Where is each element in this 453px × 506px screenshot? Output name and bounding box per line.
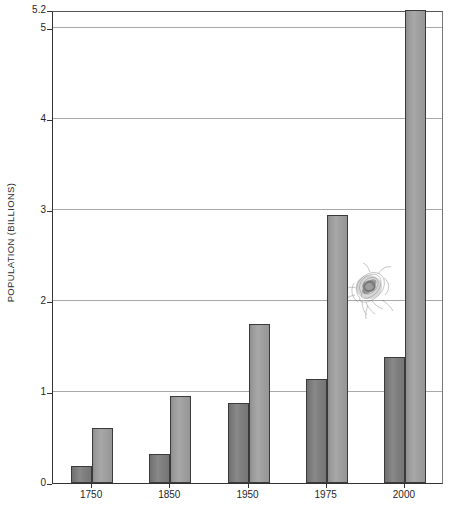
bar-1750-series-dark — [71, 466, 92, 483]
x-tick-label-1950: 1950 — [208, 489, 288, 500]
bar-2000-series-dark — [384, 357, 405, 483]
plot-frame — [52, 11, 443, 484]
bar-1975-series-light — [327, 215, 348, 483]
x-tick-label-1975: 1975 — [286, 489, 366, 500]
y-tick-label-0: 0 — [0, 477, 46, 488]
y-tick-label-2: 2 — [0, 295, 46, 306]
y-axis-title-text: POPULATION (BILLIONS) — [6, 182, 17, 302]
x-tick-mark-1950 — [248, 484, 249, 488]
y-axis-title: POPULATION (BILLIONS) — [0, 0, 22, 484]
population-bar-chart: POPULATION (BILLIONS) 0123455.2 17501850… — [0, 0, 453, 506]
plot-area — [53, 12, 442, 483]
y-tick-label-5: 5 — [0, 22, 46, 33]
bar-1850-series-dark — [149, 454, 170, 483]
x-tick-mark-1750 — [91, 484, 92, 488]
bar-2000-series-light — [405, 10, 426, 483]
bar-1750-series-light — [92, 428, 113, 483]
y-tick-label-1: 1 — [0, 386, 46, 397]
x-tick-mark-1975 — [326, 484, 327, 488]
y-tick-label-4: 4 — [0, 113, 46, 124]
gridline-5 — [53, 27, 442, 28]
x-tick-label-1750: 1750 — [51, 489, 131, 500]
x-tick-label-1850: 1850 — [129, 489, 209, 500]
bar-1850-series-light — [170, 396, 191, 483]
x-tick-mark-2000 — [404, 484, 405, 488]
bar-1950-series-dark — [228, 403, 249, 483]
y-tick-label-3: 3 — [0, 204, 46, 215]
x-tick-label-2000: 2000 — [364, 489, 444, 500]
x-tick-mark-1850 — [169, 484, 170, 488]
gridline-3 — [53, 209, 442, 210]
y-tick-label-5.2: 5.2 — [0, 4, 46, 15]
gridline-2 — [53, 300, 442, 301]
gridline-4 — [53, 118, 442, 119]
y-tick-mark-0 — [47, 484, 52, 485]
bar-1950-series-light — [249, 324, 270, 483]
bar-1975-series-dark — [306, 379, 327, 483]
